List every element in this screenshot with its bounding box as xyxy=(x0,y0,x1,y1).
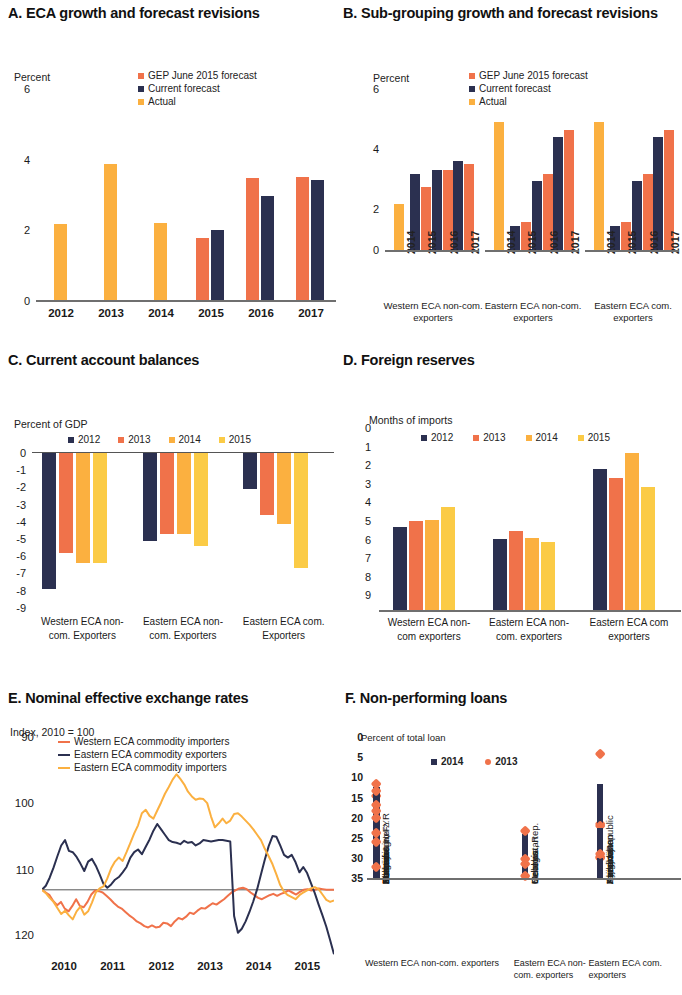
figure-container: A. ECA growth and forecast revisions Per… xyxy=(0,0,682,995)
bar-2015 xyxy=(641,487,655,610)
bar-2015 xyxy=(93,453,107,563)
bar-2012 xyxy=(42,453,56,589)
group-baseline xyxy=(385,250,479,252)
panel-c-x-axis: Western ECA non-com. ExportersEastern EC… xyxy=(32,615,334,675)
country-label: Kyrgyz Republic xyxy=(604,815,615,884)
y-tick: 15 xyxy=(351,793,363,804)
y-tick: 30 xyxy=(351,853,363,864)
bar-2015 xyxy=(194,453,208,546)
y-tick: 5 xyxy=(357,752,363,763)
panel-c-title: C. Current account balances xyxy=(8,352,338,369)
y-tick: -3 xyxy=(16,500,26,511)
bar-2014 xyxy=(597,858,603,878)
y-tick: 9 xyxy=(365,590,371,601)
line-series-eastern-eca-commodity-importers xyxy=(42,774,334,919)
bar-2013 xyxy=(509,531,523,610)
panel-c-legend: 2012 2013 2014 2015 xyxy=(68,434,251,447)
panel-a-title: A. ECA growth and forecast revisions xyxy=(8,5,338,22)
y-tick: -9 xyxy=(16,603,26,614)
y-tick: 4 xyxy=(373,144,379,155)
group-baseline xyxy=(593,878,681,880)
bar-2014 xyxy=(177,453,191,534)
panel-a-plot xyxy=(36,90,336,302)
bar-2012 xyxy=(593,469,607,610)
x-tick-label: 2011 xyxy=(91,960,135,972)
group-caption: Western ECA non-com. Exporters xyxy=(32,615,133,642)
dot-2013 xyxy=(594,748,606,760)
group-caption: Eastern ECA com. Exporters xyxy=(233,615,334,642)
panel-a-x-axis: 201220132014201520162017 xyxy=(36,305,336,325)
y-tick: -7 xyxy=(16,568,26,579)
panel-b-plot xyxy=(385,88,682,250)
bar-actual xyxy=(594,122,604,250)
group-caption: Western ECA non-com exporters xyxy=(379,616,479,643)
x-tick-label: 2015 xyxy=(193,307,229,319)
legend-label-2014: 2014 xyxy=(179,434,201,447)
y-tick: 0 xyxy=(365,423,371,434)
group-caption: Western ECA non-com. exporters xyxy=(381,300,485,324)
panel-d-y-axis: 0123456789 xyxy=(341,340,373,620)
panel-c-y-axis: 0-1-2-3-4-5-6-7-8-9 xyxy=(6,340,28,620)
y-tick: 120 xyxy=(15,930,34,942)
bar-gep xyxy=(246,178,259,302)
bar-actual xyxy=(154,223,167,303)
group-caption: Eastern ECA non-com. exporters xyxy=(514,958,587,981)
x-tick-label: 2017 xyxy=(293,307,329,319)
line-chart-svg xyxy=(42,742,334,957)
legend-label-gep: GEP June 2015 forecast xyxy=(479,70,588,83)
panel-f-groups: Western ECA non-com. exportersEastern EC… xyxy=(363,958,681,992)
legend-label-2013: 2013 xyxy=(128,434,150,447)
panel-f-plot xyxy=(369,738,681,878)
panel-d-axis-label: Months of imports xyxy=(369,414,452,426)
group-caption: Eastern ECA com exporters xyxy=(579,616,679,643)
bar-2013 xyxy=(59,453,73,553)
bar-actual xyxy=(54,224,67,302)
x-tick-label: 2013 xyxy=(188,960,232,972)
y-tick: 3 xyxy=(365,479,371,490)
x-tick-label: 2010 xyxy=(42,960,86,972)
panel-a-baseline xyxy=(36,300,336,302)
y-tick: -4 xyxy=(16,517,26,528)
bar-2012 xyxy=(243,453,257,489)
x-tick-label: 2012 xyxy=(43,307,79,319)
panel-b: B. Sub-grouping growth and forecast revi… xyxy=(341,0,682,340)
panel-d-title: D. Foreign reserves xyxy=(343,352,673,369)
legend-label-gep: GEP June 2015 forecast xyxy=(148,70,257,83)
group-caption: Eastern ECA non-com. exporters xyxy=(481,300,585,324)
x-tick-label: 2016 xyxy=(243,307,279,319)
bar-2014 xyxy=(625,453,639,610)
legend-label-2012: 2012 xyxy=(78,434,100,447)
panel-c-zeroline xyxy=(32,452,334,453)
bar-gep xyxy=(196,238,209,302)
panel-e-title: E. Nominal effective exchange rates xyxy=(8,690,338,707)
y-tick: 0 xyxy=(24,296,30,307)
bar-2012 xyxy=(393,527,407,610)
bar-actual xyxy=(394,204,404,250)
panel-e: E. Nominal effective exchange rates Inde… xyxy=(6,680,341,995)
panel-f-y-axis: 05101520253035 xyxy=(341,680,365,900)
bar-2015 xyxy=(294,453,308,568)
legend-swatch-2015-icon xyxy=(219,437,225,443)
y-tick: 2 xyxy=(24,225,30,236)
panel-d: D. Foreign reserves Months of imports 20… xyxy=(341,340,682,680)
x-tick-label: 2015 xyxy=(285,960,329,972)
bar-2013 xyxy=(409,521,423,610)
bar-2014 xyxy=(76,453,90,563)
bar-2014 xyxy=(425,520,439,610)
bar-2012 xyxy=(143,453,157,541)
y-tick: 0 xyxy=(357,732,363,743)
bar-2013 xyxy=(609,478,623,610)
y-tick: -6 xyxy=(16,551,26,562)
y-tick: 6 xyxy=(365,535,371,546)
y-tick: -8 xyxy=(16,586,26,597)
bar-2014 xyxy=(525,538,539,610)
bar-2013 xyxy=(160,453,174,534)
group-baseline xyxy=(585,250,679,252)
legend-label-2015: 2015 xyxy=(229,434,251,447)
x-tick-label: 2014 xyxy=(237,960,281,972)
y-tick: 90 xyxy=(21,732,34,744)
legend-swatch-2013-icon xyxy=(118,437,124,443)
y-tick: 1 xyxy=(365,442,371,453)
y-tick: 100 xyxy=(15,798,34,810)
legend-swatch-2014-icon xyxy=(169,437,175,443)
